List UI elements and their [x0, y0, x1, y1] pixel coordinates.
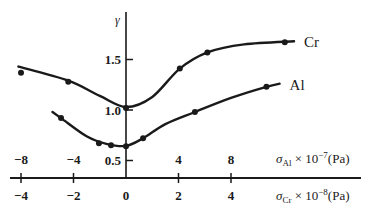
- y-tick-label: 0.5: [105, 153, 122, 168]
- series-cr: Cr: [18, 34, 319, 111]
- x-tick-label-sigma_Cr: 0: [123, 188, 130, 203]
- x-tick-label-sigma_Al: −8: [14, 152, 28, 167]
- series-al: Al: [53, 77, 305, 150]
- data-point-cr: [282, 39, 288, 45]
- x-tick-label-sigma_Cr: 2: [175, 188, 182, 203]
- y-axis-title: γ: [115, 13, 120, 27]
- series-label-cr: Cr: [304, 34, 319, 50]
- data-point-al: [108, 142, 114, 148]
- data-point-al: [192, 109, 198, 115]
- data-point-al: [58, 115, 64, 121]
- series-label-al: Al: [290, 77, 305, 93]
- data-point-cr: [177, 66, 183, 72]
- chart: γ 0.51.01.5 −8−448−4−2024 σAl × 10−7(Pa)…: [0, 0, 371, 218]
- x-tick-label-sigma_Cr: 4: [228, 188, 235, 203]
- x-tick-label-sigma_Al: 8: [228, 152, 235, 167]
- data-point-cr: [65, 79, 71, 85]
- data-point-cr: [18, 70, 24, 76]
- y-tick-label: 1.5: [105, 52, 122, 67]
- x-tick-label-sigma_Cr: −4: [14, 188, 28, 203]
- data-point-al: [123, 143, 129, 149]
- data-point-al: [140, 135, 146, 141]
- series-line-al: [53, 84, 280, 146]
- data-point-cr: [204, 49, 210, 55]
- series-line-cr: [18, 41, 294, 107]
- x-tick-label-sigma_Al: −4: [67, 152, 81, 167]
- data-point-al: [263, 84, 269, 90]
- x-tick-label-sigma_Cr: −2: [67, 188, 81, 203]
- x-axis-title-sigma_Cr: σCr × 10−8(Pa): [276, 187, 350, 205]
- data-point-cr: [123, 105, 129, 111]
- x-axis-title-sigma_Al: σAl × 10−7(Pa): [276, 150, 350, 168]
- data-point-al: [96, 140, 102, 146]
- series: CrAl: [18, 34, 319, 149]
- y-ticks: 0.51.01.5: [105, 52, 133, 168]
- x-tick-label-sigma_Al: 4: [175, 152, 182, 167]
